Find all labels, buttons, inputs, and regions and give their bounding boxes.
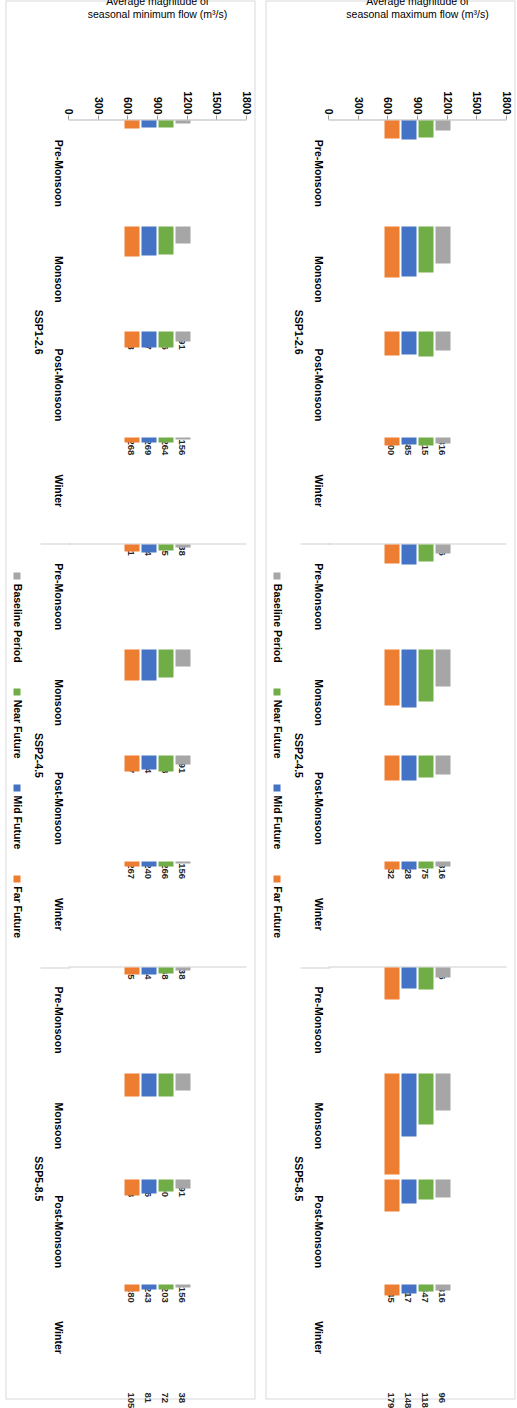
bar-baseline[interactable]: 96 (435, 861, 450, 867)
bar-mid[interactable]: 514 (141, 649, 156, 679)
bar-near[interactable]: 415 (418, 331, 433, 355)
bar-mid[interactable]: 84 (141, 437, 156, 442)
bar-baseline[interactable]: 38 (175, 437, 190, 439)
bar-mid[interactable]: 84 (141, 861, 156, 866)
bar-near[interactable]: 116 (158, 544, 173, 551)
bar-mid[interactable]: 137 (141, 544, 156, 552)
bar-far[interactable]: 523 (124, 226, 139, 257)
bar-near[interactable]: 390 (158, 1073, 173, 1096)
bar-mid[interactable]: 269 (141, 331, 156, 347)
bar-far[interactable]: 1723 (384, 1073, 399, 1174)
bar-near[interactable]: 347 (418, 1179, 433, 1199)
bar-far[interactable]: 303 (384, 120, 399, 138)
bar-near[interactable]: 476 (158, 226, 173, 254)
bar-near[interactable]: 478 (158, 649, 173, 677)
bar-baseline[interactable]: 96 (435, 437, 450, 443)
legend-item[interactable]: Baseline Period (11, 572, 23, 662)
bar-far[interactable]: 400 (384, 331, 399, 354)
bar-baseline[interactable]: 316 (435, 755, 450, 774)
bar-far[interactable]: 130 (384, 437, 399, 445)
bar-near[interactable]: 118 (418, 1284, 433, 1291)
bar-baseline[interactable]: 163 (435, 120, 450, 130)
bar-near[interactable]: 122 (418, 861, 433, 868)
bar-mid[interactable]: 117 (141, 120, 156, 127)
bar-far[interactable]: 95 (124, 861, 139, 867)
bar-mid[interactable]: 81 (141, 1284, 156, 1289)
bar-far[interactable]: 105 (124, 1284, 139, 1290)
bar-mid[interactable]: 428 (401, 755, 416, 780)
bar-baseline[interactable]: 291 (175, 226, 190, 243)
bar-mid[interactable]: 497 (141, 226, 156, 255)
bar-baseline[interactable]: 291 (175, 1073, 190, 1090)
bar-far[interactable]: 125 (124, 544, 139, 551)
bar-near[interactable]: 375 (418, 755, 433, 777)
bar-mid[interactable]: 359 (401, 967, 416, 988)
bar-far[interactable]: 267 (124, 755, 139, 771)
bar-far[interactable]: 954 (384, 649, 399, 705)
bar-near[interactable]: 797 (418, 226, 433, 273)
bar-near[interactable]: 203 (158, 1179, 173, 1191)
legend-item[interactable]: Far Future (271, 875, 283, 938)
bar-baseline[interactable]: 49 (175, 544, 190, 547)
bar-mid[interactable]: 982 (401, 649, 416, 707)
bar-far[interactable]: 432 (384, 755, 399, 780)
bar-mid[interactable]: 1066 (401, 1073, 416, 1136)
bar-baseline[interactable]: 38 (175, 861, 190, 863)
bar-near[interactable]: 88 (158, 861, 173, 866)
bar-baseline[interactable]: 631 (435, 226, 450, 263)
bar-near[interactable]: 369 (418, 967, 433, 989)
bar-near[interactable]: 296 (418, 544, 433, 561)
legend-item[interactable]: Near Future (11, 688, 23, 758)
bar-mid[interactable]: 243 (141, 1179, 156, 1193)
bar-mid[interactable]: 858 (401, 226, 416, 276)
legend-item[interactable]: Far Future (11, 875, 23, 938)
bar-mid[interactable]: 240 (141, 755, 156, 769)
bar-baseline[interactable]: 631 (435, 1073, 450, 1110)
bar-baseline[interactable]: 156 (175, 755, 190, 764)
legend-item[interactable]: Mid Future (11, 784, 23, 849)
bar-baseline[interactable]: 156 (175, 1179, 190, 1188)
bar-baseline[interactable]: 156 (175, 331, 190, 340)
bar-near[interactable]: 266 (158, 755, 173, 771)
bar-far[interactable]: 179 (384, 1284, 399, 1295)
bar-far[interactable]: 545 (384, 1179, 399, 1211)
bar-mid[interactable]: 126 (401, 437, 416, 444)
bar-far[interactable]: 398 (124, 1073, 139, 1096)
bar-near[interactable]: 85 (158, 437, 173, 442)
bar-near[interactable]: 118 (158, 120, 173, 127)
legend-item[interactable]: Mid Future (271, 784, 283, 849)
bar-mid[interactable]: 342 (401, 544, 416, 564)
bar-near[interactable]: 72 (158, 1284, 173, 1288)
bar-far[interactable]: 323 (384, 544, 399, 563)
legend-item[interactable]: Baseline Period (271, 572, 283, 662)
bar-near[interactable]: 129 (418, 437, 433, 445)
bar-far[interactable]: 268 (124, 331, 139, 347)
bar-mid[interactable]: 148 (401, 1284, 416, 1293)
bar-baseline[interactable]: 96 (435, 1284, 450, 1290)
bar-near[interactable]: 264 (158, 331, 173, 346)
bar-mid[interactable]: 323 (401, 120, 416, 139)
bar-far[interactable]: 116 (124, 967, 139, 974)
bar-mid[interactable]: 417 (401, 1179, 416, 1203)
bar-far[interactable]: 881 (384, 226, 399, 278)
bar-baseline[interactable]: 49 (175, 967, 190, 970)
bar-baseline[interactable]: 316 (435, 331, 450, 350)
bar-mid[interactable]: 110 (141, 967, 156, 973)
bar-baseline[interactable]: 38 (175, 1284, 190, 1286)
bar-baseline[interactable]: 163 (435, 544, 450, 554)
bar-baseline[interactable]: 163 (435, 967, 450, 977)
bar-mid[interactable]: 142 (401, 861, 416, 869)
legend-item[interactable]: Near Future (271, 688, 283, 758)
bar-mid[interactable]: 385 (401, 331, 416, 354)
bar-far[interactable]: 140 (124, 120, 139, 128)
bar-near[interactable]: 103 (158, 967, 173, 973)
bar-baseline[interactable]: 49 (175, 120, 190, 123)
bar-mid[interactable]: 396 (141, 1073, 156, 1096)
bar-far[interactable]: 280 (124, 1179, 139, 1195)
bar-baseline[interactable]: 631 (435, 649, 450, 686)
bar-near[interactable]: 885 (418, 649, 433, 701)
bar-far[interactable]: 539 (384, 967, 399, 999)
bar-far[interactable]: 136 (384, 861, 399, 869)
bar-baseline[interactable]: 316 (435, 1179, 450, 1198)
bar-baseline[interactable]: 291 (175, 649, 190, 666)
